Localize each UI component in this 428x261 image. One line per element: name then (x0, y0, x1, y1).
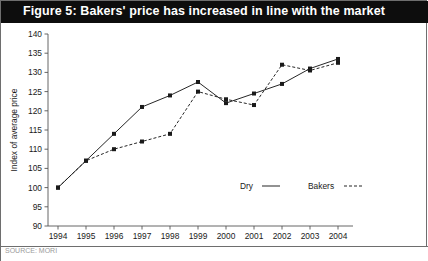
chart-text: 135 (28, 48, 42, 58)
legend-label-dry: Dry (240, 181, 254, 191)
chart-text: 140 (28, 29, 42, 39)
data-point-bakers (196, 90, 200, 94)
data-point-dry (140, 105, 144, 109)
chart-text: 1998 (161, 231, 180, 239)
chart-text: 1994 (49, 231, 68, 239)
chart-text: 2001 (245, 231, 264, 239)
chart-text: 2002 (273, 231, 292, 239)
chart-text: 95 (33, 202, 43, 212)
data-point-dry (112, 132, 116, 136)
figure-footer: SOURCE: MORI (1, 246, 428, 261)
chart-text: 1995 (77, 231, 96, 239)
chart-text: 1996 (105, 231, 124, 239)
data-point-dry (196, 80, 200, 84)
data-point-bakers (84, 159, 88, 163)
chart-text: 100 (28, 183, 42, 193)
data-point-bakers (308, 68, 312, 72)
chart-text: 105 (28, 163, 42, 173)
data-point-bakers (168, 132, 172, 136)
chart-text: 130 (28, 67, 42, 77)
data-point-dry (280, 82, 284, 86)
figure-title-bar: Figure 5: Bakers' price has increased in… (1, 1, 428, 23)
chart-text: 110 (29, 144, 43, 154)
data-point-bakers (140, 140, 144, 144)
data-point-bakers (252, 103, 256, 107)
chart-text: 1997 (133, 231, 152, 239)
chart-text: 120 (28, 106, 42, 116)
legend-label-bakers: Bakers (308, 181, 334, 191)
chart-text: 2004 (329, 231, 348, 239)
data-point-dry (224, 101, 228, 105)
chart-text: 1999 (189, 231, 208, 239)
figure-title: Figure 5: Bakers' price has increased in… (23, 4, 385, 18)
data-point-bakers (112, 147, 116, 151)
chart-text: Index of average price (9, 88, 19, 171)
data-point-bakers (280, 63, 284, 67)
data-point-bakers (224, 97, 228, 101)
data-point-dry (168, 93, 172, 97)
chart-text: 2000 (217, 231, 236, 239)
series-line-dry (58, 59, 338, 188)
chart-text: 125 (28, 87, 42, 97)
chart-text: 2003 (301, 231, 320, 239)
data-point-dry (252, 92, 256, 96)
chart-plot-area: 9095100105110115120125130135140199419951… (1, 23, 428, 239)
chart-text: 90 (33, 221, 43, 231)
chart-text: 115 (29, 125, 43, 135)
line-chart: 9095100105110115120125130135140199419951… (1, 23, 428, 239)
data-point-bakers (56, 186, 60, 190)
data-point-dry (336, 57, 340, 61)
source-note: SOURCE: MORI (5, 247, 57, 254)
data-point-bakers (336, 61, 340, 65)
